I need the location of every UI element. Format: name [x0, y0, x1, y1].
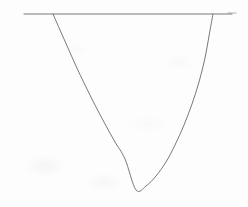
parabola-curve	[53, 14, 213, 192]
figure-canvas	[0, 0, 248, 207]
parabola-figure-svg	[0, 0, 248, 207]
